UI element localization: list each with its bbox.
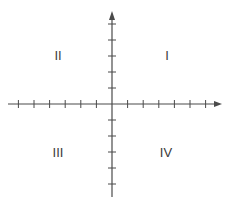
x-axis-arrow-icon (214, 101, 222, 107)
quadrant-label-ii: II (54, 49, 61, 62)
quadrant-label-iii: III (53, 146, 64, 159)
x-axis (8, 100, 222, 108)
quadrant-label-i: I (165, 49, 169, 62)
quadrant-label-iv: IV (160, 146, 172, 159)
y-axis-arrow-icon (109, 11, 115, 20)
coordinate-plane (0, 0, 235, 202)
